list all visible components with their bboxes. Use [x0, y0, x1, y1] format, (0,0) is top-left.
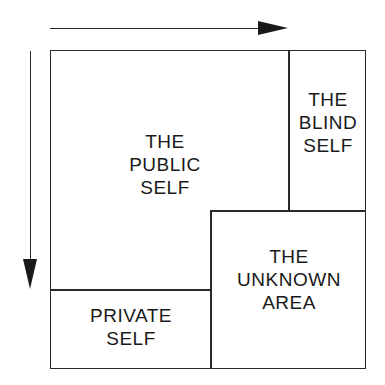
- region-private-self: PRIVATE SELF: [52, 304, 210, 350]
- arrow-down-icon: [23, 259, 37, 291]
- region-unknown-area: THE UNKNOWN AREA: [212, 245, 366, 314]
- label-line: UNKNOWN: [212, 268, 366, 291]
- label-line: SELF: [52, 327, 210, 350]
- region-blind-self: THE BLIND SELF: [290, 88, 366, 157]
- label-line: PRIVATE: [52, 304, 210, 327]
- arrow-shaft-horizontal: [50, 28, 262, 29]
- label-line: AREA: [212, 291, 366, 314]
- unknown-top-divider: [210, 210, 366, 212]
- arrow-right-icon: [258, 21, 290, 35]
- label-line: SELF: [90, 176, 240, 199]
- region-public-self: THE PUBLIC SELF: [90, 130, 240, 199]
- label-line: SELF: [290, 134, 366, 157]
- private-top-divider: [50, 289, 211, 291]
- label-line: THE: [90, 130, 240, 153]
- label-line: THE: [290, 88, 366, 111]
- label-line: PUBLIC: [90, 153, 240, 176]
- arrow-shaft-vertical: [30, 51, 31, 263]
- label-line: BLIND: [290, 111, 366, 134]
- label-line: THE: [212, 245, 366, 268]
